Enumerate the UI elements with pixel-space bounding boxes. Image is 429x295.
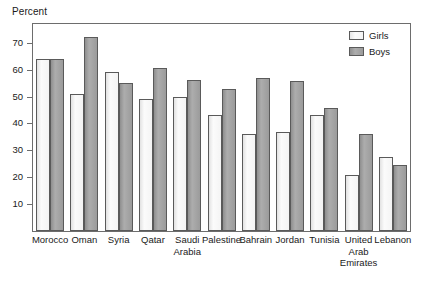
y-axis-tick-label: 50: [12, 91, 23, 102]
bar-group: [70, 24, 98, 231]
bar-group: [208, 24, 236, 231]
bar-girls: [173, 97, 187, 231]
bar-girls: [242, 134, 256, 231]
bar-girls: [36, 59, 50, 231]
bar-girls: [105, 72, 119, 231]
legend-item-girls: Girls: [349, 29, 407, 42]
bar-boys: [290, 81, 304, 231]
bar-girls: [379, 157, 393, 231]
bar-boys: [119, 83, 133, 231]
bar-group: [276, 24, 304, 231]
y-axis-tick-mark: [27, 177, 32, 178]
chart-screenshot: Percent 10203040506070 MoroccoOmanSyriaQ…: [0, 0, 429, 295]
bar-girls: [208, 115, 222, 231]
y-axis: 10203040506070: [0, 0, 32, 295]
y-axis-tick-label: 30: [12, 144, 23, 155]
legend-swatch-girls: [349, 31, 364, 40]
legend-item-boys: Boys: [349, 45, 407, 58]
x-axis-label: Lebanon: [366, 234, 420, 246]
y-axis-tick-mark: [27, 150, 32, 151]
bar-boys: [84, 37, 98, 231]
y-axis-tick-mark: [27, 70, 32, 71]
bar-boys: [153, 68, 167, 231]
bar-girls: [139, 99, 153, 231]
legend-swatch-boys: [349, 47, 364, 56]
bar-group: [310, 24, 338, 231]
y-axis-tick-label: 10: [12, 198, 23, 209]
bar-group: [173, 24, 201, 231]
bar-boys: [256, 78, 270, 231]
bar-group: [36, 24, 64, 231]
bar-boys: [359, 134, 373, 231]
y-axis-tick-label: 40: [12, 117, 23, 128]
bar-boys: [393, 165, 407, 231]
bar-group: [242, 24, 270, 231]
legend-label: Boys: [369, 46, 390, 57]
chart-legend: GirlsBoys: [349, 29, 407, 61]
bar-girls: [70, 94, 84, 231]
y-axis-tick-mark: [27, 204, 32, 205]
y-axis-tick-mark: [27, 123, 32, 124]
bar-boys: [324, 108, 338, 231]
legend-label: Girls: [369, 30, 389, 41]
bar-boys: [187, 80, 201, 231]
bar-group: [105, 24, 133, 231]
y-axis-tick-label: 20: [12, 171, 23, 182]
bar-boys: [50, 59, 64, 231]
y-axis-tick-mark: [27, 97, 32, 98]
y-axis-tick-label: 70: [12, 37, 23, 48]
bar-girls: [345, 175, 359, 231]
bar-girls: [310, 115, 324, 231]
y-axis-tick-label: 60: [12, 64, 23, 75]
bar-girls: [276, 132, 290, 231]
bar-group: [139, 24, 167, 231]
x-axis-labels: MoroccoOmanSyriaQatarSaudi ArabiaPalesti…: [33, 234, 410, 292]
y-axis-tick-mark: [27, 43, 32, 44]
bar-boys: [222, 89, 236, 231]
